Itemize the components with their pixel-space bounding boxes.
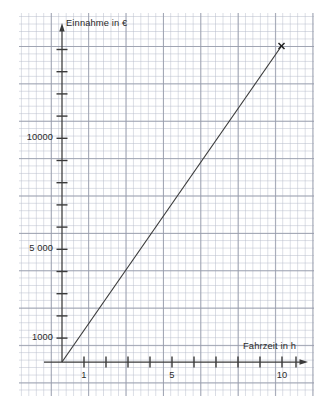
y-axis-title: Einnahme in € [66,18,127,28]
x-tick-label-10: 10 [272,370,292,380]
x-tick-label-5: 5 [162,370,182,380]
x-tick-label-1: 1 [74,370,94,380]
y-tick-label-10000: 10000 [12,132,53,142]
y-axis-arrowhead [59,23,64,32]
data-point-marker-endpoint [279,43,285,49]
x-axis-title: Fahrzeit in h [243,341,296,351]
x-axis-arrowhead [300,359,309,365]
data-line-einnahme [62,46,282,362]
chart-page: Einnahme in € Fahrzeit in h 10000 5 000 … [0,0,327,411]
y-tick-label-1000: 1000 [12,332,53,342]
y-tick-label-5000: 5 000 [12,243,53,253]
